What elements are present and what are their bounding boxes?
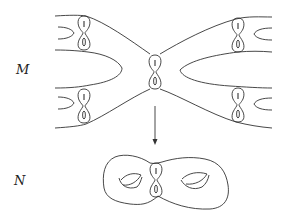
right-cap-lower	[254, 98, 272, 110]
tube-upper-left-top	[55, 15, 150, 54]
figure-eight-upper-left	[78, 16, 90, 50]
surface-n	[103, 155, 228, 209]
diagram-svg	[0, 0, 287, 218]
genus-two-outline	[103, 155, 228, 209]
tube-lower-left-bottom	[55, 89, 150, 128]
left-cap-lower	[58, 97, 74, 109]
figure-eight-n	[150, 163, 162, 197]
right-cap-upper	[254, 28, 272, 40]
left-inner-boundary	[55, 50, 122, 88]
figure-eight-center	[149, 55, 161, 89]
arrow-head-icon	[153, 139, 158, 145]
projection-arrow	[153, 106, 158, 145]
diagram-canvas: M N	[0, 0, 287, 218]
tube-lower-right-bottom	[160, 89, 272, 128]
left-cap-upper	[58, 27, 74, 39]
right-inner-boundary	[180, 51, 272, 88]
figure-eight-upper-right	[232, 18, 244, 52]
figure-eight-lower-left	[78, 89, 90, 123]
figure-eight-lower-right	[232, 88, 244, 122]
left-hole-upper	[121, 174, 141, 186]
right-hole-upper	[182, 173, 207, 185]
